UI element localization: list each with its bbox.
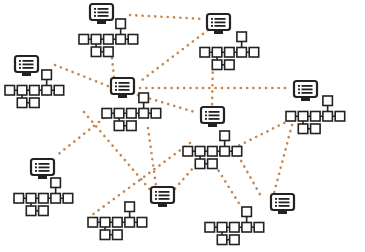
network-diagram: Network of computer nodes with hierarchy…: [0, 0, 365, 252]
dotted-link: [230, 120, 290, 150]
dotted-link: [235, 150, 262, 198]
node-n4: [102, 78, 161, 131]
hierarchy-tree-icon: [88, 202, 147, 240]
hierarchy-tree-icon: [286, 96, 345, 134]
dotted-link: [56, 118, 104, 156]
node-n9: [205, 194, 294, 245]
monitor-list-icon: [201, 107, 224, 127]
computer-nodes: [5, 4, 345, 245]
hierarchy-tree-icon: [102, 93, 161, 131]
monitor-list-icon: [207, 14, 230, 34]
dotted-link: [130, 15, 205, 19]
node-n5: [286, 81, 345, 134]
hierarchy-tree-icon: [205, 207, 264, 245]
hierarchy-tree-icon: [14, 178, 73, 216]
network-diagram-canvas: [0, 0, 365, 252]
node-n1: [79, 4, 138, 57]
connection-links: [55, 15, 292, 215]
dotted-link: [55, 65, 108, 86]
hierarchy-tree-icon: [79, 19, 138, 57]
dotted-link: [274, 125, 292, 193]
monitor-list-icon: [111, 78, 134, 98]
node-n7: [14, 159, 73, 216]
dotted-link: [148, 128, 156, 186]
node-n6: [183, 107, 242, 169]
monitor-list-icon: [271, 194, 294, 214]
monitor-list-icon: [151, 187, 174, 207]
monitor-list-icon: [294, 81, 317, 101]
monitor-list-icon: [15, 56, 38, 76]
node-n8: [88, 187, 174, 240]
monitor-list-icon: [90, 4, 113, 24]
hierarchy-tree-icon: [5, 70, 64, 108]
dotted-link: [142, 30, 208, 80]
dotted-link: [112, 58, 114, 77]
monitor-list-icon: [31, 159, 54, 179]
node-n2: [200, 14, 259, 70]
hierarchy-tree-icon: [200, 32, 259, 70]
hierarchy-tree-icon: [183, 131, 242, 169]
